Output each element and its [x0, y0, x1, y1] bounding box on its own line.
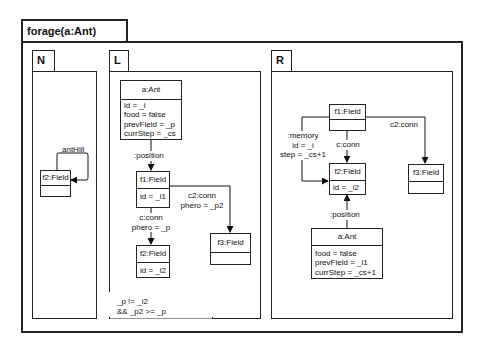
link-label-line: c2:conn	[179, 191, 225, 201]
rhs-c-conn-label: c:conn	[333, 140, 363, 150]
nac-antHill-label: antHill	[62, 145, 84, 155]
object-attributes	[330, 120, 365, 128]
condition-line: && _p2 >= _p	[117, 307, 213, 317]
lhs-ant-object[interactable]: a:Ant id = _i food = false prevField = _…	[120, 80, 182, 140]
condition-text: _p != _i2 && _p2 >= _p	[109, 292, 213, 317]
attribute: id = _i1	[140, 192, 166, 202]
condition-line: _p != _i2	[117, 297, 213, 307]
object-header: f3:Field	[409, 165, 443, 182]
object-header: f1:Field	[137, 172, 169, 189]
lhs-f3-field-object[interactable]: f3:Field	[210, 233, 251, 265]
nac-f2-field-object[interactable]: f2:Field	[40, 170, 71, 197]
object-header: a:Ant	[312, 229, 382, 246]
object-attributes: id = _i2	[137, 263, 169, 277]
object-header: f2:Field	[41, 171, 70, 186]
rhs-position-label: :position	[330, 210, 360, 220]
lhs-condition-note: _p != _i2 && _p2 >= _p	[109, 292, 213, 319]
object-header: f3:Field	[211, 234, 250, 253]
attribute: id = _i2	[333, 183, 362, 193]
rhs-ant-object[interactable]: a:Ant food = false prevField = _i1 currS…	[311, 228, 383, 279]
link-label-line: :memory	[278, 131, 328, 141]
link-label-line: id = _i	[278, 141, 328, 151]
rhs-f1-field-object[interactable]: f1:Field	[329, 104, 366, 131]
object-attributes: id = _i1	[137, 189, 169, 203]
lhs-f2-field-object[interactable]: f2:Field id = _i2	[136, 245, 170, 278]
object-header: f2:Field	[330, 164, 365, 181]
lhs-f1-field-object[interactable]: f1:Field id = _i1	[136, 171, 170, 208]
lhs-position-label: :position	[134, 151, 164, 161]
rhs-c2-conn-label: c2:conn	[390, 120, 418, 130]
attribute: id = _i	[124, 101, 178, 111]
link-label-line: phero = _p	[131, 223, 171, 233]
object-attributes	[211, 253, 250, 261]
object-attributes: food = false prevField = _i1 currStep = …	[312, 246, 382, 279]
object-header: a:Ant	[121, 81, 181, 100]
object-attributes	[409, 182, 443, 190]
link-label-line: c:conn	[131, 213, 171, 223]
lhs-c-conn-label: c:conn phero = _p	[131, 213, 171, 232]
object-attributes: id = _i food = false prevField = _p curr…	[121, 100, 181, 140]
link-label-line: step = _cs+1	[278, 150, 328, 160]
attribute: prevField = _i1	[315, 258, 379, 268]
attribute: prevField = _p	[124, 120, 178, 130]
object-header: f1:Field	[330, 105, 365, 120]
attribute: food = false	[315, 249, 379, 259]
rhs-memory-label: :memory id = _i step = _cs+1	[278, 131, 328, 160]
object-attributes	[41, 186, 70, 194]
rhs-f3-field-object[interactable]: f3:Field	[408, 164, 444, 194]
attribute: food = false	[124, 110, 178, 120]
object-attributes: id = _i2	[330, 181, 365, 194]
attribute: id = _i2	[140, 266, 166, 276]
lhs-c2-conn-label: c2:conn phero = _p2	[179, 191, 225, 210]
object-header: f2:Field	[137, 246, 169, 263]
attribute: currStep = _cs	[124, 129, 178, 139]
attribute: currStep = _cs+1	[315, 268, 379, 278]
link-label-line: phero = _p2	[179, 201, 225, 211]
rhs-f2-field-object[interactable]: f2:Field id = _i2	[329, 163, 366, 195]
